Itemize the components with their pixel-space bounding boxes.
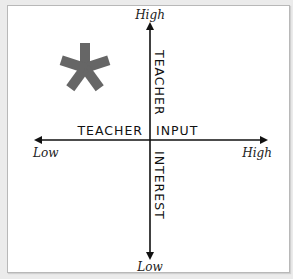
vertical-bottom-label: Low <box>136 260 163 274</box>
horizontal-left-title: TEACHER <box>76 123 143 138</box>
vertical-upper-title: TEACHER <box>152 49 167 116</box>
horizontal-left-label: Low <box>32 146 59 160</box>
quadrant-diagram: High Low Low High TEACHER INPUT TEACHER … <box>0 0 293 279</box>
asterisk-icon <box>60 43 111 91</box>
horizontal-right-title: INPUT <box>156 123 198 138</box>
horizontal-right-label: High <box>241 146 272 160</box>
vertical-top-label: High <box>134 8 165 22</box>
vertical-lower-title: INTEREST <box>152 151 167 220</box>
